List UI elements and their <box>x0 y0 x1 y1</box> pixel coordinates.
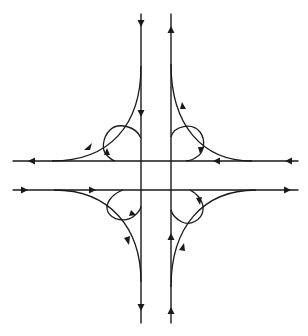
arrow-down-icon <box>138 110 145 117</box>
arrow-down-icon <box>138 20 145 27</box>
outer-ramp-top-left <box>52 66 141 161</box>
loop-ramp-bottom-left <box>107 190 141 220</box>
arrow-right-icon <box>89 187 96 194</box>
loop-arrow-icon <box>129 210 136 216</box>
arrow-up-icon <box>168 233 175 240</box>
direction-arrows <box>21 20 292 314</box>
arrow-left-icon <box>285 158 292 165</box>
arrow-left-icon <box>213 158 220 165</box>
outer-ramps <box>52 64 256 287</box>
arrow-up-icon <box>168 26 175 33</box>
loop-ramp-bottom-right <box>171 190 203 223</box>
outer-ramp-top-right <box>171 64 252 161</box>
ramp-arrow-icon <box>124 236 130 245</box>
mainline-roads <box>13 14 298 323</box>
arrow-down-icon <box>138 304 145 311</box>
ramp-arrow-icon <box>84 143 92 150</box>
cloverleaf-interchange-diagram <box>0 0 308 336</box>
arrow-up-icon <box>168 307 175 314</box>
loop-ramp-top-right <box>171 126 204 161</box>
arrow-right-icon <box>284 187 291 194</box>
arrow-left-icon <box>28 158 35 165</box>
ramp-arrow-icon <box>179 243 185 251</box>
outer-ramp-bottom-right <box>171 190 256 287</box>
outer-ramp-bottom-left <box>54 190 141 282</box>
loop-ramps <box>103 126 203 223</box>
ramp-arrow-icon <box>180 102 186 109</box>
arrow-right-icon <box>21 187 28 194</box>
